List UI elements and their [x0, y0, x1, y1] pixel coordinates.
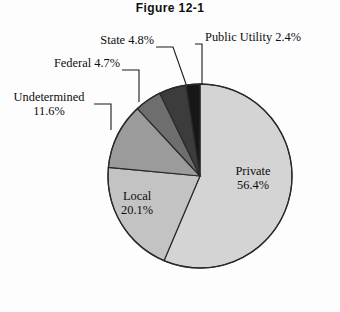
figure-container: Figure 12-1 Public Utility 2.4% State 4.…: [0, 0, 340, 312]
label-private-value: 56.4%: [222, 179, 284, 193]
label-public-utility: Public Utility 2.4%: [205, 31, 301, 45]
label-private-name: Private: [222, 165, 284, 179]
label-federal: Federal 4.7%: [0, 57, 120, 71]
label-local-value: 20.1%: [107, 204, 167, 218]
label-local: Local 20.1%: [107, 190, 167, 218]
leader-line-undetermined: [94, 104, 111, 130]
label-local-name: Local: [107, 190, 167, 204]
label-state: State 4.8%: [0, 34, 154, 48]
leader-line-state: [156, 47, 186, 84]
leader-line-federal: [122, 70, 139, 102]
leader-line-public-utility: [195, 44, 202, 85]
label-undetermined-value: 11.6%: [6, 105, 92, 119]
label-private: Private 56.4%: [222, 165, 284, 193]
label-undetermined-name: Undetermined: [6, 91, 92, 105]
label-undetermined: Undetermined 11.6%: [6, 91, 92, 119]
